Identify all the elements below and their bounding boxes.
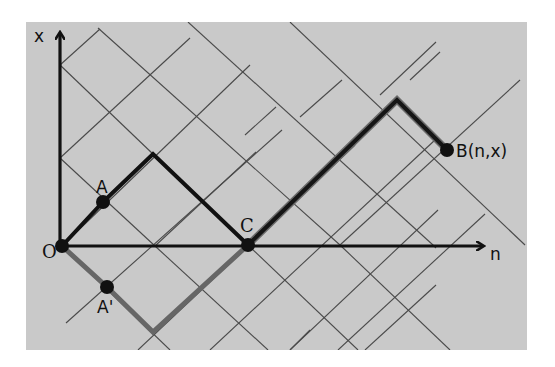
label-x-axis: x: [34, 26, 44, 46]
label-B: B(n,x): [456, 141, 507, 161]
label-C: C: [240, 215, 254, 236]
point-C: [241, 238, 255, 252]
label-origin: O: [42, 241, 57, 262]
point-A-prime: [100, 280, 114, 294]
point-O: [55, 239, 69, 253]
point-A: [96, 195, 110, 209]
lattice-path-diagram: x n O A A' C B(n,x): [0, 0, 555, 367]
point-B: [440, 143, 454, 157]
label-n-axis: n: [490, 244, 501, 264]
label-A: A: [96, 177, 108, 197]
label-A-prime: A': [97, 297, 113, 317]
